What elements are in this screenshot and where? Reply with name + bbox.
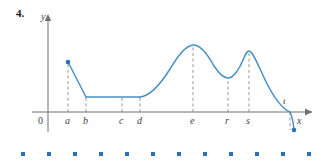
x-axis <box>32 109 312 116</box>
decorative-square <box>255 152 259 156</box>
decorative-square <box>47 152 51 156</box>
origin-label: 0 <box>38 115 43 126</box>
tick-label-a: a <box>65 115 70 126</box>
decorative-square <box>125 152 129 156</box>
decorative-square <box>73 152 77 156</box>
guide-lines <box>68 45 290 130</box>
function-curve <box>68 45 294 130</box>
x-axis-label: x <box>296 115 302 126</box>
curve-label-t: t <box>283 96 286 106</box>
start-dot <box>66 60 71 65</box>
x-tick-labels: a b c d e r s <box>65 115 250 126</box>
tick-label-s: s <box>246 115 250 126</box>
curve-segment-linear <box>68 62 86 97</box>
graph-figure: y x 0 a b c d e r s t <box>0 0 328 166</box>
decorative-square-row <box>21 152 311 156</box>
decorative-square <box>307 152 311 156</box>
decorative-square <box>151 152 155 156</box>
decorative-square <box>281 152 285 156</box>
tick-label-e: e <box>190 115 195 126</box>
tick-label-r: r <box>225 115 229 126</box>
y-axis-label: y <box>40 11 46 22</box>
decorative-square <box>203 152 207 156</box>
decorative-square <box>21 152 25 156</box>
decorative-square <box>177 152 181 156</box>
curve-segment-humps <box>140 45 294 130</box>
end-dot <box>292 128 297 133</box>
y-axis <box>45 14 51 132</box>
decorative-square <box>99 152 103 156</box>
tick-label-c: c <box>119 115 124 126</box>
decorative-square <box>229 152 233 156</box>
tick-label-d: d <box>137 115 143 126</box>
figure-page: 4. y x 0 a b c <box>0 0 328 166</box>
tick-label-b: b <box>83 115 88 126</box>
